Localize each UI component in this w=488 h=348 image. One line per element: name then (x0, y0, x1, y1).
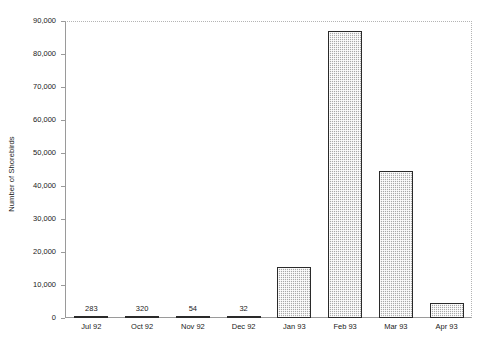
y-tick-label: 10,000 (33, 280, 56, 289)
bar-value-label: 320 (136, 304, 149, 313)
y-tick-label: 70,000 (33, 82, 56, 91)
bar-value-label: 32 (239, 304, 247, 313)
bar[interactable] (328, 31, 362, 318)
y-tick-label: 60,000 (33, 115, 56, 124)
y-tick-label: 90,000 (33, 16, 56, 25)
bar-slot: 54 (168, 21, 219, 318)
y-tick-label: 40,000 (33, 181, 56, 190)
bar-slot (371, 21, 422, 318)
x-tick-label: Feb 93 (320, 322, 371, 331)
x-tick-label: Mar 93 (371, 322, 422, 331)
y-tick-label: 0 (52, 313, 56, 322)
x-tick-label: Apr 93 (421, 322, 472, 331)
y-tick-label: 30,000 (33, 214, 56, 223)
bar[interactable]: 320 (125, 316, 159, 318)
y-axis-title: Number of Shorebirds (0, 0, 22, 348)
y-tick-label: 50,000 (33, 148, 56, 157)
bar-slot (320, 21, 371, 318)
bar[interactable] (379, 171, 413, 318)
x-tick-label: Jan 93 (269, 322, 320, 331)
x-tick-label: Nov 92 (168, 322, 219, 331)
y-tick-mark (61, 318, 65, 319)
bar-slot (269, 21, 320, 318)
bar[interactable]: 32 (227, 316, 261, 318)
bar-slot (421, 21, 472, 318)
bar[interactable] (277, 267, 311, 318)
bar-value-label: 283 (85, 304, 98, 313)
bars-layer: 2833205432 (66, 21, 472, 318)
bar-slot: 32 (218, 21, 269, 318)
bar[interactable]: 283 (74, 316, 108, 318)
y-tick-label: 20,000 (33, 247, 56, 256)
bar-slot: 320 (117, 21, 168, 318)
y-tick-label: 80,000 (33, 49, 56, 58)
x-tick-label: Oct 92 (117, 322, 168, 331)
bar-slot: 283 (66, 21, 117, 318)
bar[interactable]: 54 (176, 316, 210, 318)
x-axis-labels: Jul 92Oct 92Nov 92Dec 92Jan 93Feb 93Mar … (66, 322, 472, 331)
x-tick-label: Dec 92 (218, 322, 269, 331)
x-tick-label: Jul 92 (66, 322, 117, 331)
bar-value-label: 54 (189, 304, 197, 313)
bar[interactable] (430, 303, 464, 319)
bar-chart-figure: Number of Shorebirds 010,00020,00030,000… (0, 0, 488, 348)
